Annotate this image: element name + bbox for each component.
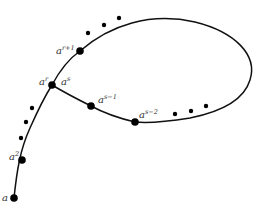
node-a (10, 194, 18, 202)
ellipsis-dot-upper (117, 16, 121, 20)
node-as-1 (87, 102, 95, 110)
node-label-as: as (61, 75, 71, 87)
node-ar (48, 81, 56, 89)
node-label-a: a (2, 192, 8, 203)
ellipsis-dot-upper (86, 31, 90, 35)
node-as-2 (131, 118, 139, 126)
tail-curve (14, 85, 52, 198)
ellipsis-dot-lower (189, 109, 193, 113)
cycle-diagram: aa2arasar+1as−1as−2 (0, 0, 261, 211)
cycle-upper-curve (52, 19, 252, 123)
ellipsis-dot-tail (30, 106, 34, 110)
node-label-ar1: ar+1 (56, 44, 75, 56)
node-label-as-1: as−1 (98, 93, 117, 105)
ellipsis-dot-lower (204, 104, 208, 108)
node-ar1 (76, 47, 84, 55)
node-label-as-2: as−2 (139, 108, 158, 120)
ellipsis-dot-lower (173, 112, 177, 116)
node-label-ar: ar (39, 75, 49, 87)
curves (14, 19, 252, 198)
ellipsis-dot-tail (24, 120, 28, 124)
node-label-a2: a2 (9, 150, 19, 162)
nodes (10, 47, 139, 202)
node-a2 (18, 156, 26, 164)
ellipsis-dot-upper (102, 23, 106, 27)
ellipsis-dot-tail (19, 136, 23, 140)
